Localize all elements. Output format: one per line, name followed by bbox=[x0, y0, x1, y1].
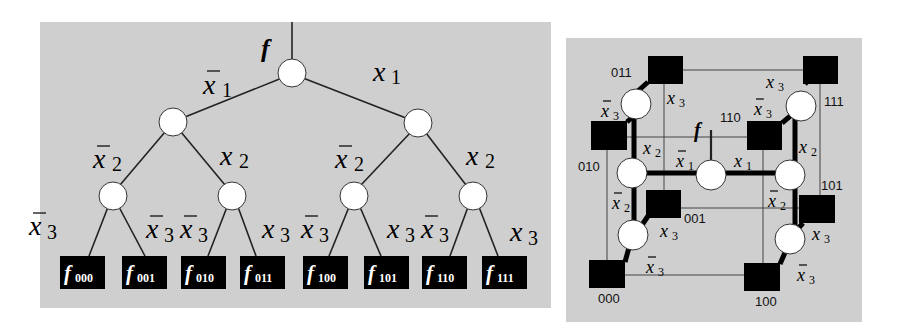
cube-node-0-x2 bbox=[617, 158, 647, 188]
corner-001 bbox=[646, 190, 681, 218]
svg-text:001: 001 bbox=[137, 271, 155, 285]
svg-text:1: 1 bbox=[391, 66, 401, 88]
leaf-f101: f 101 bbox=[364, 256, 409, 289]
svg-text:011: 011 bbox=[255, 271, 272, 285]
svg-text:1: 1 bbox=[746, 159, 752, 173]
svg-text:x: x bbox=[811, 224, 820, 244]
svg-text:111: 111 bbox=[497, 271, 514, 285]
code-001: 001 bbox=[684, 211, 706, 226]
svg-text:000: 000 bbox=[75, 271, 93, 285]
svg-text:3: 3 bbox=[766, 107, 772, 121]
svg-text:x: x bbox=[300, 213, 314, 244]
svg-text:1: 1 bbox=[688, 159, 694, 173]
svg-text:3: 3 bbox=[405, 224, 415, 246]
leaf-f100: f 100 bbox=[303, 256, 348, 289]
svg-text:x: x bbox=[675, 151, 684, 171]
svg-text:x: x bbox=[666, 88, 675, 108]
svg-text:1: 1 bbox=[222, 79, 232, 101]
corner-101 bbox=[799, 195, 835, 223]
corner-111 bbox=[803, 56, 838, 84]
svg-text:x: x bbox=[765, 72, 774, 92]
svg-text:2: 2 bbox=[655, 146, 661, 160]
svg-text:3: 3 bbox=[778, 80, 784, 94]
leaf-f011: f 011 bbox=[240, 256, 285, 289]
svg-text:3: 3 bbox=[809, 273, 815, 287]
svg-text:3: 3 bbox=[280, 224, 290, 246]
svg-text:x: x bbox=[28, 210, 42, 241]
code-100: 100 bbox=[755, 294, 777, 309]
svg-text:3: 3 bbox=[672, 229, 678, 243]
svg-text:2: 2 bbox=[354, 153, 364, 175]
cube-node-01-x3 bbox=[621, 89, 651, 119]
cube-panel: 011 111 010 110 001 101 000 100 f x 1 x … bbox=[566, 38, 862, 322]
svg-text:x: x bbox=[642, 138, 651, 158]
cube-node-00-x3 bbox=[618, 220, 648, 250]
corner-000 bbox=[589, 260, 625, 288]
node-11 bbox=[459, 182, 487, 210]
svg-text:x: x bbox=[798, 137, 807, 157]
svg-text:x: x bbox=[92, 143, 106, 174]
svg-text:100: 100 bbox=[318, 271, 336, 285]
corner-010 bbox=[591, 121, 627, 150]
svg-text:x: x bbox=[179, 213, 193, 244]
node-x1-neg bbox=[159, 108, 187, 136]
leaf-f110: f 110 bbox=[422, 256, 467, 289]
leaf-f010: f 010 bbox=[181, 256, 226, 289]
svg-text:x: x bbox=[600, 101, 609, 121]
svg-text:2: 2 bbox=[239, 150, 249, 172]
svg-text:2: 2 bbox=[112, 153, 122, 175]
svg-text:x: x bbox=[753, 99, 762, 119]
svg-text:3: 3 bbox=[679, 96, 685, 110]
svg-text:x: x bbox=[219, 140, 233, 171]
svg-text:3: 3 bbox=[319, 224, 329, 246]
code-011: 011 bbox=[611, 65, 632, 80]
cube-root-node bbox=[696, 160, 726, 190]
svg-text:x: x bbox=[733, 151, 742, 171]
svg-text:3: 3 bbox=[824, 232, 830, 246]
svg-text:101: 101 bbox=[379, 271, 397, 285]
decision-tree-panel: f x 1 x 1 x 2 x 2 x 2 x 2 bbox=[28, 22, 551, 308]
root-node bbox=[278, 59, 306, 87]
code-110: 110 bbox=[720, 110, 741, 125]
code-101: 101 bbox=[821, 178, 843, 193]
code-111: 111 bbox=[824, 94, 844, 109]
code-010: 010 bbox=[578, 159, 600, 174]
svg-text:2: 2 bbox=[485, 150, 495, 172]
svg-text:2: 2 bbox=[624, 201, 630, 215]
svg-text:x: x bbox=[509, 216, 523, 247]
svg-text:110: 110 bbox=[437, 271, 454, 285]
svg-text:x: x bbox=[645, 257, 654, 277]
cube-node-10-x3 bbox=[775, 224, 805, 254]
svg-text:x: x bbox=[465, 140, 479, 171]
cube-node-1-x2 bbox=[775, 160, 805, 190]
svg-text:2: 2 bbox=[780, 199, 786, 213]
svg-text:x: x bbox=[611, 193, 620, 213]
svg-text:x: x bbox=[145, 213, 159, 244]
svg-text:3: 3 bbox=[47, 221, 57, 243]
svg-text:010: 010 bbox=[196, 271, 214, 285]
svg-text:x: x bbox=[659, 221, 668, 241]
svg-text:x: x bbox=[334, 143, 348, 174]
svg-text:3: 3 bbox=[528, 227, 538, 249]
corner-011 bbox=[648, 56, 683, 84]
svg-text:x: x bbox=[420, 213, 434, 244]
cube-node-11-x3 bbox=[786, 91, 816, 121]
svg-text:3: 3 bbox=[613, 109, 619, 123]
svg-text:x: x bbox=[796, 265, 805, 285]
leaf-f111: f 111 bbox=[482, 256, 527, 289]
svg-text:x: x bbox=[386, 213, 400, 244]
corner-110 bbox=[747, 121, 782, 150]
node-01 bbox=[218, 182, 246, 210]
node-x1-pos bbox=[404, 109, 432, 137]
leaf-f001: f 001 bbox=[122, 256, 167, 289]
node-00 bbox=[99, 182, 127, 210]
node-10 bbox=[340, 182, 368, 210]
svg-text:3: 3 bbox=[439, 224, 449, 246]
svg-text:x: x bbox=[372, 56, 386, 87]
svg-text:3: 3 bbox=[658, 265, 664, 279]
svg-text:2: 2 bbox=[811, 145, 817, 159]
svg-text:x: x bbox=[767, 191, 776, 211]
svg-text:3: 3 bbox=[198, 224, 208, 246]
svg-text:x: x bbox=[261, 213, 275, 244]
code-000: 000 bbox=[598, 291, 620, 306]
